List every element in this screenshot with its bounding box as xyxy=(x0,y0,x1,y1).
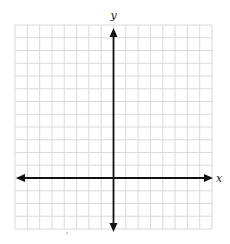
x-axis-label: x xyxy=(216,172,223,185)
smudge-mark xyxy=(66,232,68,234)
y-axis-label: y xyxy=(110,9,118,22)
coordinate-plane: x y xyxy=(0,0,230,244)
